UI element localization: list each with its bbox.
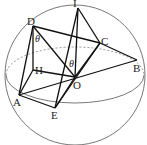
sphere-diagram: I D C B H O A E θ θ xyxy=(0,0,147,145)
point-C-label: C xyxy=(101,36,108,47)
edges xyxy=(19,8,137,108)
point-B-label: B xyxy=(133,63,140,74)
point-D-label: D xyxy=(27,16,35,27)
diagram-canvas xyxy=(0,0,147,145)
angle-theta-D: θ xyxy=(35,34,40,44)
point-I-label: I xyxy=(73,0,77,9)
point-H-label: H xyxy=(35,65,43,76)
point-E-label: E xyxy=(51,110,58,121)
point-O-label: O xyxy=(73,80,81,91)
angle-theta-O: θ xyxy=(69,59,74,69)
point-A-label: A xyxy=(13,97,21,108)
